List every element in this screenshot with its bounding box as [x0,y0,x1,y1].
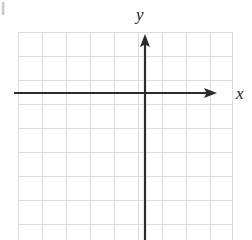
top-left-crop-artifact [1,2,5,15]
grid-lines [18,32,233,240]
y-axis-label: y [136,6,144,23]
coordinate-plane-figure: y x [0,0,252,240]
coordinate-plane-svg [0,0,252,240]
grid-vertical-lines [19,32,233,240]
grid-horizontal-lines [18,33,233,225]
x-axis-label: x [236,85,244,102]
y-axis [140,34,150,240]
